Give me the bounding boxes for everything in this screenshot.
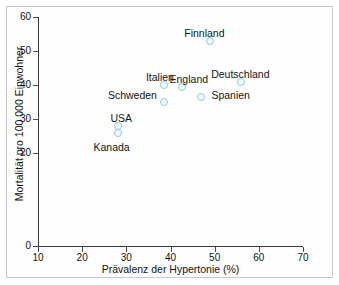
x-axis-tick-text: 60 [244, 252, 274, 263]
data-point-label: Schweden [108, 89, 157, 101]
y-axis-label: Mortalität pro 100 000 Einwohner [13, 19, 25, 229]
x-axis-tick-text: 70 [288, 252, 318, 263]
y-axis-tick-text: 0 [25, 240, 31, 251]
x-axis-tick-text: 20 [67, 252, 97, 263]
data-point-marker [114, 129, 122, 137]
data-point-label: USA [111, 112, 133, 124]
data-point-label: Spanien [211, 89, 250, 101]
x-axis-tick-text: 10 [23, 252, 53, 263]
x-axis-label: Prävalenz der Hypertonie (%) [38, 263, 303, 275]
x-axis-tick-text: 50 [200, 252, 230, 263]
x-axis-tick-text: 40 [156, 252, 186, 263]
data-point-label: England [170, 73, 209, 85]
data-point-label: Finnland [184, 27, 224, 39]
data-point-label: Deutschland [211, 68, 269, 80]
chart-figure: 02030405060 10203040506070 Prävalenz der… [0, 0, 339, 285]
plot-area [38, 17, 303, 246]
data-point-label: Kanada [94, 141, 130, 153]
y-axis-tick-label: 0 [6, 240, 31, 252]
data-point-marker [160, 98, 168, 106]
x-axis-tick-text: 30 [111, 252, 141, 263]
